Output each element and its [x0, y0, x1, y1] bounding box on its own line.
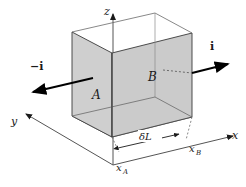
x-A-label-group: x A — [116, 162, 128, 176]
face-B-surface — [112, 33, 192, 137]
delta-L-label: δL — [139, 131, 152, 142]
face-B-label: B — [147, 70, 157, 84]
x-B-subscript: B — [195, 149, 201, 157]
z-axis-label: z — [103, 5, 110, 18]
face-A-surface — [72, 32, 112, 137]
control-volume-box: A B — [72, 13, 192, 137]
plus-i-arrow — [192, 64, 228, 73]
y-axis-label: y — [10, 115, 18, 128]
x-B-projector — [186, 117, 192, 140]
x-A-subscript: A — [122, 168, 128, 176]
plus-i-label: i — [210, 40, 214, 53]
control-volume-figure: z y x A — [0, 0, 246, 187]
box-top-rim — [72, 13, 192, 33]
x-B-base: x — [189, 143, 195, 154]
x-A-base: x — [116, 162, 122, 173]
face-A-label: A — [91, 88, 101, 102]
x-axis-label: x — [232, 129, 239, 142]
x-axis-line — [113, 136, 233, 165]
figure-canvas: z y x A — [0, 0, 246, 187]
minus-i-label: −i — [30, 60, 43, 73]
